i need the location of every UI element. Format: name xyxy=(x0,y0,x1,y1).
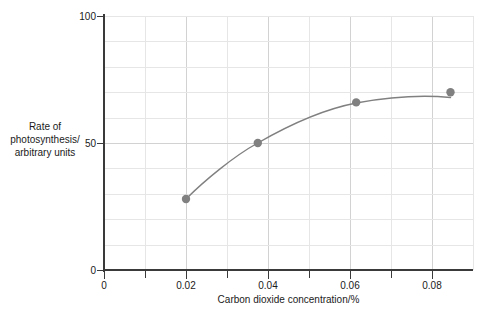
x-axis-title: Carbon dioxide concentration/% xyxy=(104,294,473,305)
y-axis-title-line: photosynthesis/ xyxy=(2,133,88,146)
x-tick-label: 0.06 xyxy=(340,280,359,291)
x-tick xyxy=(432,271,433,279)
x-tick-label: 0.08 xyxy=(422,280,441,291)
y-axis-title-line: arbitrary units xyxy=(2,146,88,159)
y-tick-label: 100 xyxy=(79,11,96,22)
x-tick xyxy=(268,271,269,279)
data-point xyxy=(254,139,262,147)
y-tick-label: 0 xyxy=(90,265,96,276)
series-line xyxy=(186,96,451,199)
x-tick-label: 0.02 xyxy=(176,280,195,291)
data-point xyxy=(446,88,454,96)
x-tick xyxy=(309,271,310,278)
x-tick xyxy=(145,271,146,278)
x-tick xyxy=(186,271,187,279)
y-tick xyxy=(97,143,104,144)
x-tick xyxy=(104,271,105,279)
photosynthesis-co2-chart: 0 0.02 0.04 0.06 0.08 100 50 0 Carbon di… xyxy=(0,0,483,317)
plot-area xyxy=(104,16,473,270)
y-tick xyxy=(97,270,104,271)
y-tick xyxy=(97,16,104,17)
x-tick xyxy=(350,271,351,279)
x-tick xyxy=(391,271,392,278)
x-tick-label: 0.04 xyxy=(258,280,277,291)
data-point xyxy=(352,98,360,106)
y-axis-title-line: Rate of xyxy=(2,120,88,133)
data-point xyxy=(182,195,190,203)
x-tick-label: 0 xyxy=(101,280,107,291)
y-axis-title: Rate of photosynthesis/ arbitrary units xyxy=(2,120,88,159)
gridline-vertical xyxy=(473,16,474,270)
x-axis-line xyxy=(103,269,473,271)
x-tick xyxy=(227,271,228,278)
data-series xyxy=(104,16,473,270)
